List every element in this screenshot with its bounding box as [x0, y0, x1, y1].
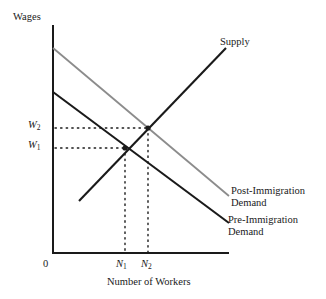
x-tick-n1-sub: 1	[123, 262, 127, 271]
supply-demand-figure: Wages W2 W1 0 N1 N2 Number of Workers Su…	[0, 0, 326, 299]
x-tick-n2-base: N	[141, 258, 148, 269]
origin-label: 0	[43, 258, 48, 270]
pre-immigration-demand-label-line1: Pre-Immigration	[228, 214, 298, 225]
pre-immigration-demand-label: Pre-ImmigrationDemand	[228, 214, 298, 238]
post-immigration-demand-curve	[53, 48, 229, 196]
pre-immigration-demand-label-line2: Demand	[228, 226, 264, 237]
x-tick-label-n1: N1	[116, 258, 127, 271]
y-tick-w2-sub: 2	[37, 123, 41, 132]
post-immigration-demand-label-line2: Demand	[231, 197, 267, 208]
x-tick-label-n2: N2	[141, 258, 152, 271]
y-tick-label-w2: W2	[28, 119, 41, 132]
x-axis-title: Number of Workers	[107, 276, 191, 288]
y-tick-w1-sub: 1	[37, 143, 41, 152]
x-tick-n2-sub: 2	[148, 262, 152, 271]
plot-canvas	[0, 0, 326, 299]
post-immigration-demand-label-line1: Post-Immigration	[231, 185, 305, 196]
pre-immigration-demand-curve	[53, 92, 229, 223]
y-tick-label-w1: W1	[28, 139, 41, 152]
y-axis-title: Wages	[13, 11, 41, 23]
equilibrium-point-1	[122, 145, 127, 150]
supply-curve-label: Supply	[220, 36, 250, 48]
post-immigration-demand-label: Post-ImmigrationDemand	[231, 185, 305, 209]
y-tick-w1-base: W	[28, 139, 37, 150]
supply-curve	[79, 48, 226, 201]
x-tick-n1-base: N	[116, 258, 123, 269]
y-tick-w2-base: W	[28, 119, 37, 130]
equilibrium-point-2	[145, 125, 150, 130]
